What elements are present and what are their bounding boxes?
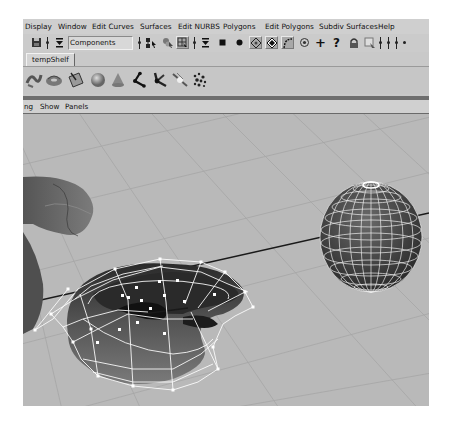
selection-mode-field[interactable]: Components — [68, 36, 133, 50]
snap-icon[interactable] — [403, 41, 406, 44]
mask-dropdown-icon[interactable] — [199, 36, 212, 49]
nurbs-torus-tool-icon[interactable] — [45, 71, 63, 89]
ik-handle-tool-icon[interactable] — [150, 71, 168, 89]
save-scene-icon[interactable] — [30, 36, 43, 49]
misc-mask-icon[interactable]: ? — [330, 36, 343, 49]
poly-sphere-selected — [320, 182, 422, 292]
pivot-mask-icon[interactable] — [298, 36, 311, 49]
separator-handle[interactable] — [387, 41, 390, 44]
menu-display[interactable]: Display — [25, 22, 52, 31]
separator-handle[interactable] — [395, 41, 398, 44]
menu-edit-curves[interactable]: Edit Curves — [92, 22, 134, 31]
joint-tool-icon[interactable] — [129, 71, 147, 89]
panel-menu-panels[interactable]: Panels — [65, 102, 88, 111]
point-mask-icon[interactable] — [216, 36, 229, 49]
sphere-tool-icon[interactable] — [89, 71, 107, 89]
shelf-tab-bar: tempShelf — [23, 52, 429, 66]
sculpt-tool-icon[interactable] — [171, 71, 189, 89]
nurbs-curve-tool-icon[interactable] — [25, 71, 43, 89]
viewport-canvas[interactable] — [23, 114, 429, 406]
panel-menu-shading[interactable]: ng — [24, 102, 33, 111]
hull-mask-icon[interactable] — [281, 36, 294, 49]
panel-menu-show[interactable]: Show — [40, 102, 59, 111]
select-by-component-icon[interactable] — [176, 36, 189, 49]
status-line: Components — [23, 34, 429, 52]
menu-subdiv-surfaces[interactable]: Subdiv Surfaces — [319, 22, 378, 31]
menu-window[interactable]: Window — [58, 22, 87, 31]
menu-edit-polygons[interactable]: Edit Polygons — [265, 22, 314, 31]
face-mask-icon[interactable] — [265, 36, 278, 49]
main-menubar: Display Window Edit Curves Surfaces Edit… — [23, 19, 429, 34]
panel-menubar: ng Show Panels — [23, 100, 429, 114]
menu-polygons[interactable]: Polygons — [223, 22, 255, 31]
separator-handle[interactable] — [46, 41, 49, 44]
nurbs-plane-tool-icon[interactable] — [67, 71, 85, 89]
menu-surfaces[interactable]: Surfaces — [140, 22, 172, 31]
separator-handle[interactable] — [193, 41, 196, 44]
separator-handle[interactable] — [138, 41, 141, 44]
separator-handle[interactable] — [379, 41, 382, 44]
cone-tool-icon[interactable] — [109, 71, 127, 89]
mode-dropdown-icon[interactable] — [53, 36, 66, 49]
shelf-tab-tempshelf[interactable]: tempShelf — [26, 53, 75, 66]
maya-window: Display Window Edit Curves Surfaces Edit… — [23, 19, 429, 406]
shelf — [23, 66, 429, 94]
particle-tool-icon[interactable] — [191, 71, 209, 89]
menu-edit-nurbs[interactable]: Edit NURBS — [178, 22, 220, 31]
line-mask-icon[interactable] — [249, 36, 262, 49]
param-point-mask-icon[interactable] — [233, 36, 246, 49]
select-by-hierarchy-icon[interactable] — [144, 36, 157, 49]
handle-mask-icon[interactable]: + — [314, 36, 327, 49]
menu-help[interactable]: Help — [378, 22, 395, 31]
select-by-object-icon[interactable] — [161, 36, 174, 49]
perspective-viewport[interactable] — [23, 114, 429, 406]
highlight-selection-icon[interactable] — [363, 36, 376, 49]
lock-selection-icon[interactable] — [347, 36, 360, 49]
